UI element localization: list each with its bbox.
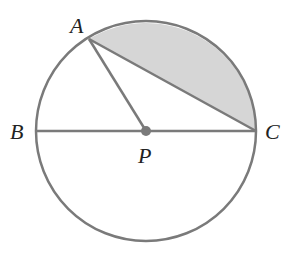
label-p: P bbox=[137, 143, 151, 168]
label-b: B bbox=[10, 119, 23, 144]
diagram-canvas: A B C P bbox=[0, 0, 292, 255]
circle-diagram: A B C P bbox=[0, 0, 292, 255]
center-point-p bbox=[141, 126, 151, 136]
label-a: A bbox=[68, 13, 84, 38]
label-c: C bbox=[265, 119, 280, 144]
shaded-segment bbox=[89, 23, 256, 131]
